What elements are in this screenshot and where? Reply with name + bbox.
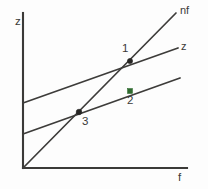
- point-marker-1: [127, 58, 132, 63]
- line-lower: [23, 78, 180, 134]
- y-axis-label: z: [15, 16, 21, 28]
- point-label-1: 1: [122, 43, 128, 55]
- point-marker-2: [128, 89, 133, 94]
- x-axis-label: f: [178, 172, 181, 184]
- line-label-z: z: [181, 41, 187, 52]
- point-marker-3: [76, 109, 82, 115]
- line-nf: [23, 13, 176, 168]
- diagram-canvas: [0, 0, 208, 189]
- point-label-3: 3: [82, 116, 88, 128]
- diagram-figure: z f nf z 1 2 3: [0, 0, 208, 189]
- line-label-nf: nf: [180, 5, 189, 16]
- line-z: [23, 48, 178, 103]
- point-label-2: 2: [127, 95, 133, 107]
